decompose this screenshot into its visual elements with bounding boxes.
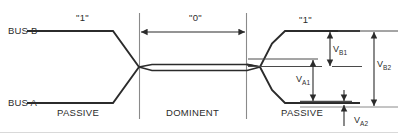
va1-sub: A1 xyxy=(302,79,310,86)
bit-zero-middle-label: "0" xyxy=(189,13,202,23)
vb2-sub: B2 xyxy=(383,64,391,71)
bus-a-waveform-left xyxy=(27,67,139,103)
va2-sub: A2 xyxy=(360,120,368,127)
state-passive-left-label: PASSIVE xyxy=(57,108,99,118)
bit-one-left-label: "1" xyxy=(76,13,89,23)
vb1-label: VB1 xyxy=(333,45,347,56)
state-dominent-middle-label: DOMINENT xyxy=(166,108,219,118)
vb1-sub: B1 xyxy=(339,49,347,56)
bus-a-waveform-dominent xyxy=(139,67,260,71)
vb2-label: VB2 xyxy=(377,60,391,71)
bus-b-waveform-left xyxy=(27,31,139,67)
bus-signalling-diagram: BUS B BUS A "1" "0" "1" PASSIVE DOMINENT… xyxy=(0,0,398,134)
bus-b-label: BUS B xyxy=(8,26,38,36)
bus-a-label: BUS A xyxy=(8,98,37,108)
bus-b-waveform-dominent xyxy=(139,65,260,68)
state-passive-right-label: PASSIVE xyxy=(281,108,323,118)
va1-label: VA1 xyxy=(296,75,310,86)
bit-one-right-label: "1" xyxy=(299,15,312,25)
va2-label: VA2 xyxy=(354,116,368,127)
